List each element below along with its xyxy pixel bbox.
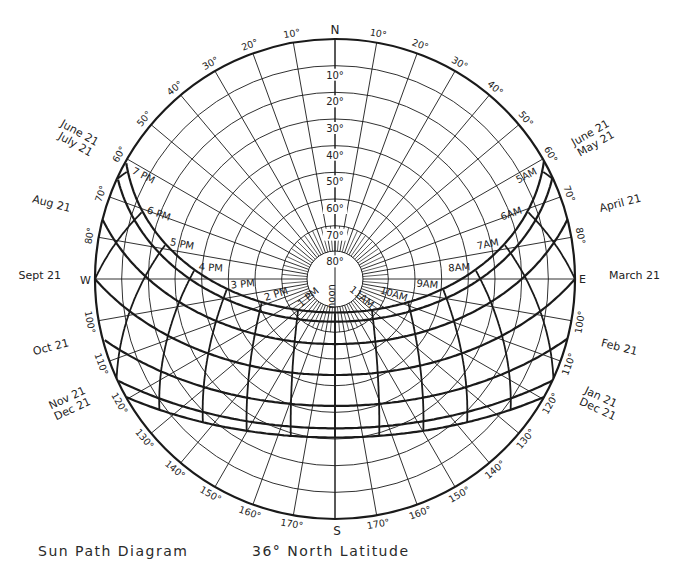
hour-label: 8AM	[448, 261, 471, 273]
azimuth-spoke	[181, 95, 317, 257]
azimuth-label: 170°	[280, 516, 304, 531]
azimuth-label: 120°	[109, 391, 130, 416]
azimuth-label: 80°	[82, 226, 96, 244]
date-label-west: Sept 21	[18, 269, 61, 282]
cardinal-south: S	[333, 524, 341, 538]
azimuth-minor-spoke	[355, 241, 373, 259]
azimuth-minor-spoke	[297, 241, 315, 259]
cardinal-east: E	[579, 273, 586, 286]
altitude-label: 10°	[326, 70, 344, 81]
azimuth-label: 170°	[366, 516, 390, 531]
azimuth-label: 130°	[514, 426, 537, 451]
azimuth-minor-spoke	[363, 274, 388, 276]
azimuth-minor-spoke	[282, 274, 307, 276]
hour-label: 6AM	[499, 205, 523, 223]
date-label-line: Feb 21	[600, 336, 639, 358]
date-label-east: March 21	[609, 269, 660, 282]
cardinal-north: N	[331, 23, 340, 37]
azimuth-spoke	[215, 71, 321, 255]
azimuth-minor-spoke	[282, 281, 307, 283]
date-label-east: Jan 21Dec 21	[576, 384, 623, 423]
azimuth-spoke	[345, 53, 418, 252]
hour-label: 7AM	[476, 236, 500, 251]
date-label-east: June 21May 21	[568, 117, 617, 160]
altitude-label: 40°	[326, 150, 344, 161]
date-label-line: Oct 21	[32, 336, 71, 358]
cardinal-west: W	[80, 274, 91, 287]
date-label-east: Feb 21	[600, 336, 639, 358]
date-label-east: April 21	[598, 192, 643, 215]
altitude-label: 20°	[326, 96, 344, 107]
date-label-west: Oct 21	[32, 336, 71, 358]
hour-label: 4 PM	[198, 261, 223, 274]
azimuth-label: 140°	[482, 458, 507, 481]
azimuth-label: 10°	[369, 26, 387, 40]
azimuth-spoke	[353, 95, 489, 257]
date-label-line: March 21	[609, 269, 660, 282]
latitude-label: 36° North Latitude	[252, 543, 410, 559]
altitude-label: 70°	[326, 230, 344, 241]
hour-label: 5 PM	[169, 236, 195, 252]
hour-label: 3 PM	[230, 277, 255, 290]
azimuth-label: 150°	[447, 484, 472, 505]
azimuth-label: 80°	[574, 226, 588, 244]
azimuth-label: 70°	[93, 184, 109, 204]
azimuth-label: 10°	[282, 26, 300, 40]
azimuth-minor-spoke	[337, 307, 339, 332]
altitude-label: 50°	[326, 176, 344, 187]
azimuth-label: 20°	[411, 36, 431, 52]
altitude-label: 30°	[326, 123, 344, 134]
date-label-line: Aug 21	[31, 193, 72, 215]
sun-path-diagram: 170°160°150°140°130°120°110°100°80°70°60…	[0, 0, 674, 585]
date-label-line: April 21	[598, 192, 643, 215]
date-label-west: Nov 21Dec 21	[47, 384, 93, 423]
hour-label: noon	[326, 284, 337, 309]
azimuth-label: 100°	[83, 310, 98, 334]
altitude-label: 80°	[326, 256, 344, 267]
azimuth-label: 20°	[240, 36, 260, 52]
azimuth-spoke	[361, 197, 560, 270]
hour-label: 6 PM	[146, 204, 172, 222]
azimuth-spoke	[109, 197, 308, 270]
altitude-label: 60°	[326, 203, 344, 214]
azimuth-spoke	[253, 53, 326, 252]
azimuth-label: 140°	[163, 458, 188, 481]
azimuth-spoke	[349, 71, 455, 255]
hour-label: 9AM	[416, 277, 439, 290]
azimuth-label: 150°	[198, 484, 223, 505]
azimuth-label: 130°	[133, 426, 156, 451]
date-label-line: Sept 21	[18, 269, 61, 282]
azimuth-label: 70°	[561, 184, 577, 204]
date-label-west: Aug 21	[31, 193, 72, 215]
date-label-west: June 21July 21	[52, 117, 101, 160]
azimuth-label: 120°	[540, 391, 561, 416]
azimuth-spoke	[340, 307, 377, 516]
azimuth-minor-spoke	[363, 281, 388, 283]
azimuth-spoke	[293, 307, 330, 516]
azimuth-minor-spoke	[330, 307, 332, 332]
azimuth-label: 100°	[572, 310, 587, 334]
diagram-title: Sun Path Diagram	[38, 543, 188, 559]
